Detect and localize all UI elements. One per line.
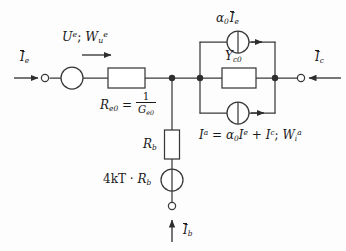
junction-dot-collector-left xyxy=(197,75,203,81)
base-current-label: Ib xyxy=(183,224,193,238)
circuit-schematic-canvas xyxy=(0,0,346,251)
base-resistor-box xyxy=(165,130,180,159)
emitter-terminal xyxy=(41,74,48,81)
junction-dot-collector-right xyxy=(272,75,278,81)
thermal-noise-label: 4kT · Rb xyxy=(103,173,151,187)
emitter-source-circle xyxy=(61,67,83,89)
collector-terminal xyxy=(297,74,304,81)
alpha-source-label: α0Ie xyxy=(216,12,239,26)
input-current-label: Ie xyxy=(20,51,29,65)
output-current-label: Ic xyxy=(315,51,324,65)
port-voltage-power-label: Ue; Wue xyxy=(62,31,108,45)
base-terminal xyxy=(168,202,175,209)
collector-admittance-box xyxy=(222,68,256,88)
circuit-diagram: Ie Ue; Wue Re0 = 1Ge0 Rb 4kT · Rb Ib α0I… xyxy=(0,0,346,251)
emitter-resistor-box xyxy=(108,68,145,88)
collector-admittance-label: Yc0 xyxy=(225,50,242,64)
junction-dot-base-node xyxy=(169,75,175,81)
noise-current-expression: Ia = α0Ie + Ic; Wia xyxy=(199,129,302,143)
emitter-resistor-label: Re0 = 1Ge0 xyxy=(100,92,156,118)
base-resistor-label: Rb xyxy=(143,138,157,152)
